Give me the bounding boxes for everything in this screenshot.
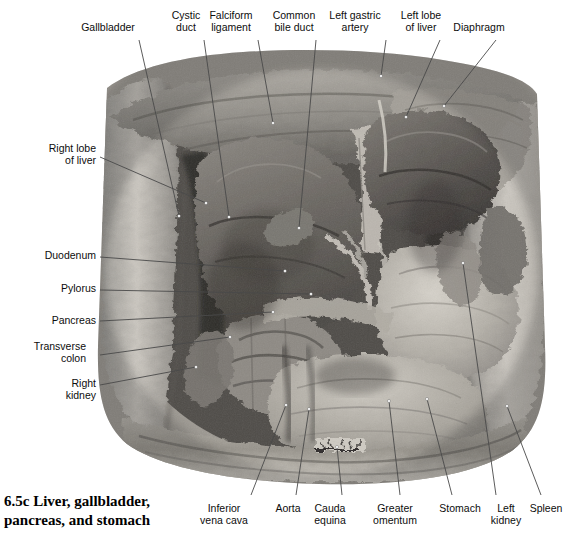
label-pylorus: Pylorus	[30, 283, 96, 295]
specimen-photograph	[93, 46, 549, 486]
label-gallbladder: Gallbladder	[75, 22, 141, 34]
label-left-gastric-artery: Left gastric artery	[324, 10, 386, 33]
label-common-bile-duct: Common bile duct	[266, 10, 322, 33]
label-right-kidney: Right kidney	[30, 378, 96, 401]
label-left-kidney: Left kidney	[487, 503, 525, 526]
label-right-lobe-of-liver: Right lobe of liver	[30, 143, 96, 166]
label-left-lobe-of-liver: Left lobe of liver	[395, 10, 447, 33]
figure-caption: 6.5c Liver, gallbladder, pancreas, and s…	[4, 492, 244, 529]
anatomy-figure: GallbladderCystic ductFalciform ligament…	[0, 0, 573, 537]
label-duodenum: Duodenum	[30, 250, 96, 262]
label-transverse-colon: Transverse colon	[10, 341, 86, 364]
label-diaphragm: Diaphragm	[448, 22, 510, 34]
label-cystic-duct: Cystic duct	[166, 10, 206, 33]
label-pancreas: Pancreas	[30, 315, 96, 327]
label-greater-omentum: Greater omentum	[365, 503, 425, 526]
label-spleen: Spleen	[526, 503, 566, 515]
label-stomach: Stomach	[435, 503, 485, 515]
label-falciform-ligament: Falciform ligament	[203, 10, 259, 33]
label-cauda-equina: Cauda equina	[308, 503, 352, 526]
label-aorta: Aorta	[270, 503, 306, 515]
specimen-photograph-image	[93, 46, 549, 486]
